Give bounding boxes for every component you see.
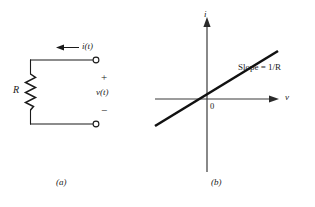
- polarity-minus-label: −: [101, 105, 107, 116]
- current-label: i(t): [82, 42, 93, 51]
- terminal-bottom: [93, 121, 99, 127]
- polarity-plus-label: +: [101, 72, 107, 83]
- x-axis-label: v: [285, 93, 289, 102]
- origin-label: 0: [210, 102, 214, 111]
- iv-graph: [155, 17, 279, 172]
- terminal-top: [93, 57, 99, 63]
- current-arrow-icon: [56, 45, 79, 51]
- x-axis-arrowhead: [269, 95, 279, 102]
- y-axis-label: i: [204, 10, 207, 19]
- panel-a-caption: (a): [56, 178, 67, 187]
- slope-annotation: Slope = 1/R: [238, 63, 281, 72]
- circuit-diagram: [26, 45, 99, 127]
- figure-canvas: [0, 0, 315, 207]
- resistor-symbol: [26, 74, 36, 110]
- figure-root: i(t) R + v(t) − (a) i v 0 Slope = 1/R (b…: [0, 0, 315, 207]
- voltage-label: v(t): [96, 88, 109, 97]
- resistor-label: R: [13, 85, 19, 95]
- panel-b-caption: (b): [211, 178, 222, 187]
